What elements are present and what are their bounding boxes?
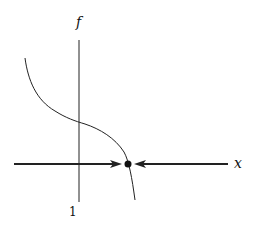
equilibrium-point <box>125 161 132 168</box>
tick-label: 1 <box>69 205 77 219</box>
phase-diagram: f 1 x <box>0 0 253 227</box>
horizontal-axis-label: x <box>234 155 242 171</box>
vertical-axis-label: f <box>75 14 84 30</box>
function-curve <box>25 58 135 200</box>
